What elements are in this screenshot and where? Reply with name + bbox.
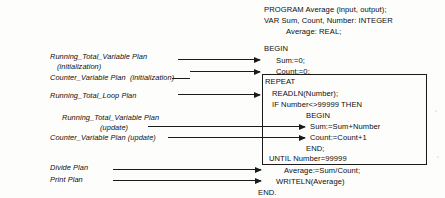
code-line-var-declaration: VAR Sum, Count, Number: INTEGER — [264, 16, 393, 25]
plan-label-counter-variable-initialization: Counter_Variable Plan (initialization) — [50, 73, 174, 82]
code-line-program-header: PROGRAM Average (input, output); — [264, 5, 387, 14]
plan-label-divide: Divide Plan — [50, 163, 88, 172]
code-line-average-divide: Average:=Sum/Count; — [284, 166, 360, 175]
code-line-until: UNTIL Number=99999 — [269, 154, 347, 163]
plan-label-running-total-variable-initialization-line1: Running_Total_Variable Plan — [50, 52, 147, 61]
plan-label-running-total-loop: Running_Total_Loop Plan — [50, 91, 137, 100]
code-line-end-program: END. — [258, 188, 276, 197]
arrow-running-total-variable-initialization — [178, 59, 260, 60]
scan-speckle — [437, 156, 439, 158]
code-line-begin-inner: BEGIN — [306, 111, 330, 120]
plan-label-counter-variable-update: Counter_Variable Plan (update) — [50, 133, 156, 142]
code-line-count-init: Count:=0; — [276, 67, 310, 76]
plan-label-print: Print Plan — [50, 175, 83, 184]
code-line-sum-update: Sum:=Sum+Number — [310, 122, 380, 131]
figure-canvas: PROGRAM Average (input, output); VAR Sum… — [0, 0, 445, 198]
code-line-sum-init: Sum:=0; — [276, 56, 305, 65]
scan-speckle — [435, 110, 437, 112]
code-line-begin-outer: BEGIN — [264, 44, 288, 53]
code-line-repeat: REPEAT — [265, 77, 295, 86]
code-line-end-inner: END; — [306, 144, 324, 153]
plan-label-running-total-variable-initialization-line2: (initialization) — [57, 62, 101, 71]
arrow-counter-variable-update — [168, 137, 305, 138]
repeat-loop-box — [262, 74, 427, 165]
code-line-count-update: Count:=Count+1 — [310, 133, 367, 142]
code-line-if-sentinel: IF Number<>99999 THEN — [272, 100, 362, 109]
arrow-divide-plan — [113, 169, 261, 170]
plan-label-running-total-variable-update-line2: (update) — [100, 123, 128, 132]
arrow-running-total-loop — [178, 94, 260, 95]
arrow-running-total-variable-update — [148, 126, 305, 127]
arrow-counter-variable-initialization — [190, 71, 260, 72]
code-line-readln: READLN(Number); — [272, 89, 338, 98]
code-line-writeln: WRITELN(Average) — [276, 177, 345, 186]
arrow-print-plan — [113, 180, 261, 181]
code-line-average-real: Average: REAL; — [286, 27, 341, 36]
plan-label-running-total-variable-update-line1: Running_Total_Variable Plan — [62, 113, 159, 122]
leader-counter-variable-initialization — [172, 78, 190, 79]
